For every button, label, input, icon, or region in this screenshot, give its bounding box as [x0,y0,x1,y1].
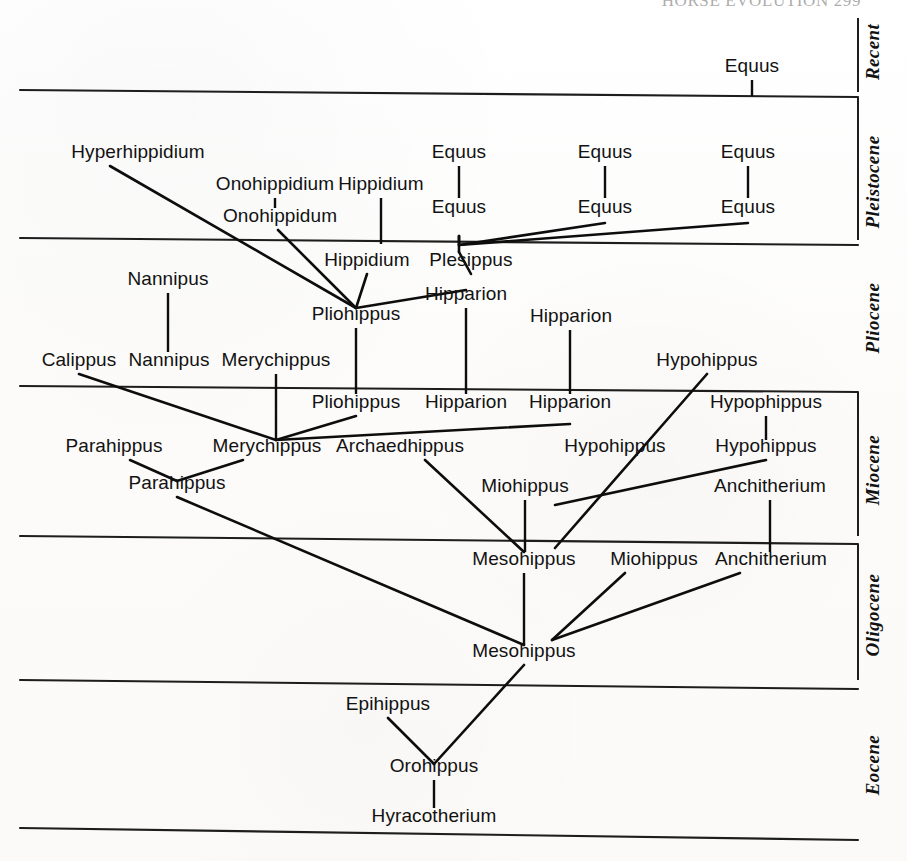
taxon-label-pliohippus-lower: Pliohippus [312,391,401,412]
horse-evolution-figure: HORSE EVOLUTION 299 EquusHyperhippidiumE… [0,0,907,861]
taxon-label-merychippus-lower: Merychippus [213,435,322,456]
epoch-label-recent: Recent [862,24,883,82]
taxon-label-hypohippus-plio: Hypohippus [656,349,757,370]
epoch-label-pleistocene: Pleistocene [862,135,883,229]
taxon-label-hipparion-mio-2: Hipparion [529,391,611,412]
taxon-label-onohippidum: Onohippidum [223,205,337,226]
taxon-label-hypohippus-mio-1: Hypohippus [564,435,665,456]
taxon-label-merychippus-upper: Merychippus [222,349,331,370]
epoch-label-miocene: Miocene [862,435,883,507]
taxon-label-hyperhippidium: Hyperhippidium [71,141,204,162]
taxon-label-hipparion-plio-2: Hipparion [530,305,612,326]
epoch-label-group: RecentPleistocenePlioceneMioceneOligocen… [862,24,883,797]
epoch-divider-recent-pleistocene [20,90,858,97]
taxon-label-equus-pleist-upper-1: Equus [432,141,486,162]
taxon-label-hyracotherium: Hyracotherium [372,805,497,826]
taxon-label-equus-pleist-lower-3: Equus [721,196,775,217]
taxon-label-equus-pleist-lower-2: Equus [578,196,632,217]
taxon-label-hippidium-upper: Hippidium [338,173,423,194]
taxon-label-equus-recent: Equus [725,55,779,76]
lineage-miohippus-oligo-to-meso [552,573,625,640]
taxon-label-pliohippus-upper: Pliohippus [312,303,401,324]
taxon-label-hypophippus: Hypophippus [710,391,822,412]
taxon-label-parahippus-lower: Parahippus [128,472,225,493]
lineage-anchitherium-oligo-to-meso [552,573,740,640]
lineage-equus-fan-right [459,223,748,245]
taxon-label-miohippus-mio: Miohippus [481,475,569,496]
taxon-label-hippidium-lower: Hippidium [324,249,409,270]
epoch-label-eocene: Eocene [862,735,883,797]
lineage-parahippus-to-mesohippus [177,497,524,645]
taxon-label-onohippidium: Onohippidium [216,173,334,194]
taxon-label-equus-pleist-upper-2: Equus [578,141,632,162]
taxon-label-mesohippus-lower: Mesohippus [472,640,575,661]
epoch-divider-pleistocene-pliocene [20,238,858,245]
taxon-label-orohippus: Orohippus [390,755,479,776]
taxon-label-anchitherium-mio: Anchitherium [714,475,826,496]
taxon-label-equus-pleist-lower-1: Equus [432,196,486,217]
taxon-label-plesippus: Plesippus [429,249,512,270]
taxon-label-calippus: Calippus [42,349,117,370]
taxon-label-nannipus-lower: Nannipus [128,349,209,370]
epoch-label-pliocene: Pliocene [862,282,883,354]
taxon-label-nannipus-upper: Nannipus [127,268,208,289]
epoch-divider-oligocene-eocene [20,680,858,689]
lineage-calippus-to-merychippus [79,374,276,440]
taxon-label-group: EquusHyperhippidiumEquusEquusEquusOnohip… [42,55,827,826]
phylogeny-canvas: EquusHyperhippidiumEquusEquusEquusOnohip… [0,0,907,861]
epoch-divider-eocene-base [20,828,858,840]
lineage-mesohippus-to-orohippus [434,665,524,764]
epoch-label-oligocene: Oligocene [862,573,883,656]
taxon-label-archaedhippus: Archaedhippus [336,435,464,456]
taxon-label-hipparion-mio-1: Hipparion [425,391,507,412]
taxon-label-parahippus-upper: Parahippus [65,435,162,456]
taxon-label-hypohippus-mio-2: Hypohippus [715,435,816,456]
epoch-divider-miocene-oligocene [20,536,858,544]
lineage-archaedhippus-to-mesohippus [425,460,524,552]
taxon-label-hipparion-plio-1: Hipparion [425,283,507,304]
taxon-label-epihippus: Epihippus [346,693,430,714]
taxon-label-anchitherium-oligo: Anchitherium [715,548,827,569]
taxon-label-mesohippus-upper: Mesohippus [472,548,575,569]
taxon-label-equus-pleist-upper-3: Equus [721,141,775,162]
taxon-label-miohippus-oligo: Miohippus [610,548,698,569]
